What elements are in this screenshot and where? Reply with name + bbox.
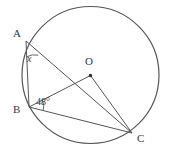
angle-label-48: 48°: [36, 97, 50, 107]
point-label-a: A: [13, 28, 21, 39]
point-label-c: C: [137, 133, 144, 144]
center-point-dot: [89, 74, 92, 77]
segment-ab: [26, 41, 29, 107]
geometry-figure: A B O C x 48°: [0, 0, 171, 156]
point-label-b: B: [13, 104, 20, 115]
point-label-o: O: [85, 56, 93, 67]
angle-label-x: x: [27, 54, 31, 64]
geometry-canvas: [0, 0, 171, 156]
